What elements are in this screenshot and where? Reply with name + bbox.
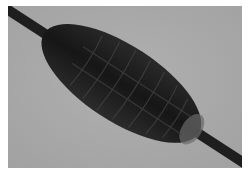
specimen-illustration: [8, 6, 242, 168]
photo: [8, 6, 242, 168]
